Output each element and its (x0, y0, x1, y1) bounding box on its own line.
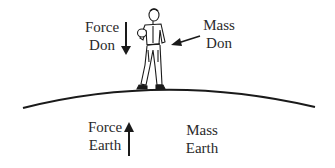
force-don-line2: Don (80, 36, 124, 54)
mass-don-line1: Mass (198, 16, 240, 34)
force-earth-line2: Earth (84, 136, 126, 154)
force-don-line1: Force (80, 18, 124, 36)
mass-earth-line2: Earth (181, 139, 223, 157)
mass-earth-line1: Mass (181, 121, 223, 139)
gravity-diagram: Force Don Mass Don Force Earth Mass Eart… (0, 0, 335, 168)
force-earth-line1: Force (84, 118, 126, 136)
force-earth-label: Force Earth (84, 118, 126, 154)
mass-don-label: Mass Don (198, 16, 240, 52)
force-don-label: Force Don (80, 18, 124, 54)
person-standing-icon (137, 9, 165, 89)
diagram-graphics (0, 0, 335, 168)
mass-don-line2: Don (198, 34, 240, 52)
mass-earth-label: Mass Earth (181, 121, 223, 157)
earth-surface-curve (23, 90, 315, 108)
mass-don-arrow-icon (171, 36, 200, 46)
